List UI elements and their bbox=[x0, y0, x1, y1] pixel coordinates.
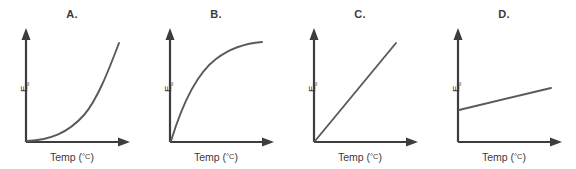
x-axis-arrowhead-icon bbox=[262, 138, 274, 147]
panel-c-x-axis-label: Temp (°C) bbox=[288, 151, 432, 163]
y-axis-arrowhead-icon bbox=[166, 28, 175, 40]
figure-container: A. Ea Temp (°C) B. Ea Temp (°C) C. bbox=[0, 0, 576, 169]
panel-c: C. Ea Temp (°C) bbox=[288, 0, 432, 169]
panel-b-y-axis-label: Ea bbox=[162, 82, 174, 92]
x-axis-arrowhead-icon bbox=[406, 138, 418, 147]
panel-c-y-axis-label: Ea bbox=[306, 82, 318, 92]
y-axis-arrowhead-icon bbox=[454, 28, 463, 40]
panel-b-x-axis-label: Temp (°C) bbox=[144, 151, 288, 163]
panel-a: A. Ea Temp (°C) bbox=[0, 0, 144, 169]
panel-d-x-axis-label: Temp (°C) bbox=[432, 151, 576, 163]
y-axis-arrowhead-icon bbox=[310, 28, 319, 40]
x-axis-arrowhead-icon bbox=[118, 138, 130, 147]
panel-b: B. Ea Temp (°C) bbox=[144, 0, 288, 169]
panel-d-y-axis-label: Ea bbox=[450, 82, 462, 92]
panel-d: D. Ea Temp (°C) bbox=[432, 0, 576, 169]
curve-linear-intercept bbox=[459, 88, 551, 110]
y-axis-arrowhead-icon bbox=[22, 28, 31, 40]
panel-a-y-axis-label: Ea bbox=[18, 82, 30, 92]
curve-exponential bbox=[27, 43, 119, 141]
panel-a-x-axis-label: Temp (°C) bbox=[0, 151, 144, 163]
x-axis-arrowhead-icon bbox=[550, 138, 562, 147]
curve-linear-origin bbox=[315, 43, 396, 141]
curve-logarithmic bbox=[171, 42, 262, 141]
